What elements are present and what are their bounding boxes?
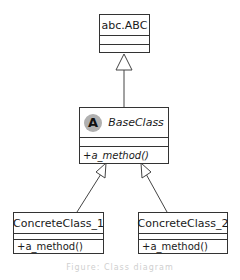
figure-caption: Figure: Class diagram bbox=[0, 263, 240, 272]
method: +a_method() bbox=[14, 239, 103, 253]
method: +a_method() bbox=[80, 146, 168, 163]
class-name: ConcreteClass_1 bbox=[14, 213, 103, 233]
edge-concrete1-to-baseclass bbox=[77, 174, 101, 212]
class-name: ConcreteClass_2 bbox=[139, 213, 227, 233]
abstract-class-icon: A bbox=[84, 114, 102, 132]
generalization-arrow-icon bbox=[141, 163, 151, 178]
edge-concrete2-to-baseclass bbox=[146, 174, 167, 212]
generalization-arrow-icon bbox=[116, 54, 132, 70]
class-name: abc.ABC bbox=[100, 15, 149, 35]
class-concreteclass-2[interactable]: ConcreteClass_2 +a_method() bbox=[138, 212, 228, 254]
class-name: BaseClass bbox=[108, 116, 164, 129]
generalization-arrow-icon bbox=[96, 163, 106, 178]
class-baseclass[interactable]: A BaseClass +a_method() bbox=[79, 107, 169, 164]
class-concreteclass-1[interactable]: ConcreteClass_1 +a_method() bbox=[13, 212, 104, 254]
class-header: A BaseClass bbox=[80, 108, 168, 137]
attributes-section bbox=[80, 137, 168, 146]
class-abc-abc[interactable]: abc.ABC bbox=[99, 14, 150, 53]
attributes-section bbox=[100, 35, 149, 44]
method: +a_method() bbox=[139, 239, 227, 253]
methods-section bbox=[100, 44, 149, 52]
